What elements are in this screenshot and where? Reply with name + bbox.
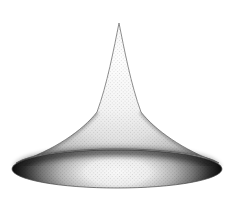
peaked-surface-figure	[0, 0, 239, 208]
halftone-overlay	[0, 0, 239, 208]
surface-plot-canvas	[0, 0, 239, 208]
